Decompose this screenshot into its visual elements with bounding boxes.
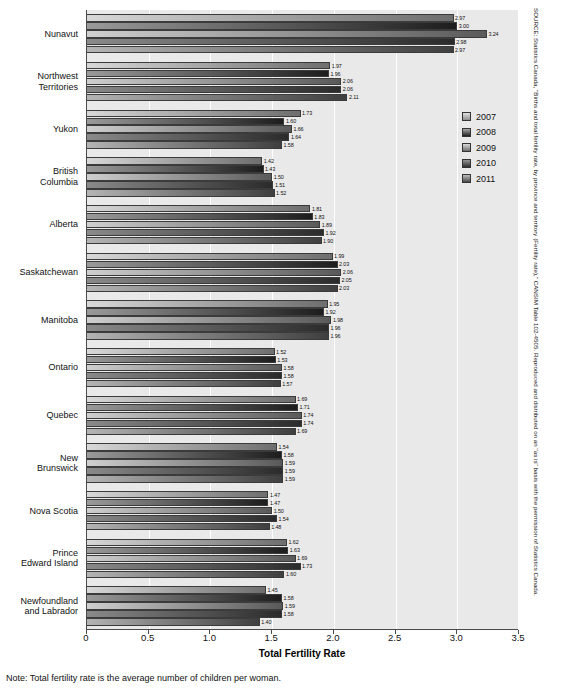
bar-row: 2.03	[87, 285, 518, 292]
bar-2008[interactable]	[87, 547, 288, 554]
bar-2007[interactable]	[87, 586, 266, 593]
bar-2008[interactable]	[87, 261, 338, 268]
category-label-line: Yukon	[0, 124, 78, 135]
bar-2011[interactable]	[87, 285, 338, 292]
bar-value-label: 1.73	[301, 110, 313, 116]
bar-value-label: 1.60	[284, 118, 296, 124]
bar-2011[interactable]	[87, 523, 270, 530]
bar-2007[interactable]	[87, 253, 333, 260]
bar-2010[interactable]	[87, 181, 273, 188]
bar-2009[interactable]	[87, 173, 272, 180]
x-tick-label: 0	[83, 632, 88, 643]
bar-2010[interactable]	[87, 277, 340, 284]
bar-row: 1.66	[87, 125, 518, 132]
bar-2011[interactable]	[87, 189, 275, 196]
bar-2008[interactable]	[87, 451, 282, 458]
bar-2009[interactable]	[87, 364, 282, 371]
bar-value-label: 1.51	[273, 182, 285, 188]
bar-row: 1.90	[87, 237, 518, 244]
bar-2010[interactable]	[87, 420, 302, 427]
bar-2009[interactable]	[87, 316, 331, 323]
bar-2008[interactable]	[87, 594, 282, 601]
category-label-line: Nunavut	[0, 29, 78, 40]
bar-2008[interactable]	[87, 404, 298, 411]
bar-value-label: 2.97	[454, 15, 466, 21]
x-tick-label: 1.5	[265, 632, 278, 643]
bar-2008[interactable]	[87, 118, 284, 125]
bar-2010[interactable]	[87, 563, 301, 570]
bar-2011[interactable]	[87, 428, 296, 435]
bar-value-label: 1.58	[282, 452, 294, 458]
bar-2008[interactable]	[87, 70, 329, 77]
bar-2007[interactable]	[87, 300, 328, 307]
x-tick-label: 3.5	[511, 632, 524, 643]
bar-value-label: 1.42	[262, 158, 274, 164]
category-label-line: Nova Scotia	[0, 506, 78, 517]
bar-2008[interactable]	[87, 356, 276, 363]
legend-item-2008[interactable]: 2008	[462, 126, 496, 139]
bar-2011[interactable]	[87, 618, 260, 625]
legend-item-2007[interactable]: 2007	[462, 110, 496, 123]
bar-2010[interactable]	[87, 610, 282, 617]
bar-value-label: 1.53	[276, 357, 288, 363]
bar-row: 2.06	[87, 269, 518, 276]
bar-2011[interactable]	[87, 237, 322, 244]
bar-row: 1.58	[87, 364, 518, 371]
bar-2007[interactable]	[87, 157, 262, 164]
bar-2009[interactable]	[87, 221, 320, 228]
category-label-prince-edward-island: PrinceEdward Island	[0, 548, 78, 569]
bar-2008[interactable]	[87, 308, 324, 315]
bar-2011[interactable]	[87, 46, 454, 53]
bar-value-label: 2.06	[341, 86, 353, 92]
bar-2011[interactable]	[87, 332, 329, 339]
bar-value-label: 1.59	[283, 468, 295, 474]
bar-2009[interactable]	[87, 412, 302, 419]
bar-2010[interactable]	[87, 324, 329, 331]
bar-2009[interactable]	[87, 555, 296, 562]
bar-2011[interactable]	[87, 475, 283, 482]
bar-2009[interactable]	[87, 459, 283, 466]
bar-2007[interactable]	[87, 443, 277, 450]
bar-2008[interactable]	[87, 213, 313, 220]
bar-2010[interactable]	[87, 229, 324, 236]
bar-value-label: 1.97	[330, 63, 342, 69]
bar-2010[interactable]	[87, 38, 455, 45]
bar-2007[interactable]	[87, 110, 301, 117]
bar-2009[interactable]	[87, 507, 272, 514]
bar-2007[interactable]	[87, 14, 454, 21]
bar-2010[interactable]	[87, 515, 277, 522]
bar-2011[interactable]	[87, 571, 284, 578]
bar-row: 1.43	[87, 165, 518, 172]
bar-2007[interactable]	[87, 539, 287, 546]
bar-2007[interactable]	[87, 205, 310, 212]
bar-2011[interactable]	[87, 380, 281, 387]
bar-value-label: 2.03	[338, 261, 350, 267]
bar-2011[interactable]	[87, 94, 347, 101]
bar-2007[interactable]	[87, 348, 275, 355]
bar-2010[interactable]	[87, 372, 282, 379]
bar-2007[interactable]	[87, 62, 330, 69]
bar-row: 1.74	[87, 412, 518, 419]
bar-group: 1.451.581.591.581.40	[87, 586, 518, 625]
bar-2009[interactable]	[87, 602, 283, 609]
legend-item-2009[interactable]: 2009	[462, 141, 496, 154]
bar-2011[interactable]	[87, 141, 282, 148]
bar-2009[interactable]	[87, 30, 487, 37]
legend-item-2010[interactable]: 2010	[462, 157, 496, 170]
bar-2009[interactable]	[87, 125, 292, 132]
bar-row: 1.69	[87, 555, 518, 562]
bar-2007[interactable]	[87, 396, 296, 403]
bar-2010[interactable]	[87, 86, 341, 93]
bar-2009[interactable]	[87, 269, 341, 276]
bar-2010[interactable]	[87, 467, 283, 474]
legend-item-2011[interactable]: 2011	[462, 172, 496, 185]
bar-row: 1.58	[87, 610, 518, 617]
bar-2009[interactable]	[87, 78, 341, 85]
bar-2008[interactable]	[87, 165, 264, 172]
bar-2010[interactable]	[87, 133, 289, 140]
bar-row: 1.63	[87, 547, 518, 554]
bar-2007[interactable]	[87, 491, 268, 498]
x-tick-label: 1.0	[203, 632, 216, 643]
bar-2008[interactable]	[87, 499, 268, 506]
bar-2008[interactable]	[87, 22, 457, 29]
